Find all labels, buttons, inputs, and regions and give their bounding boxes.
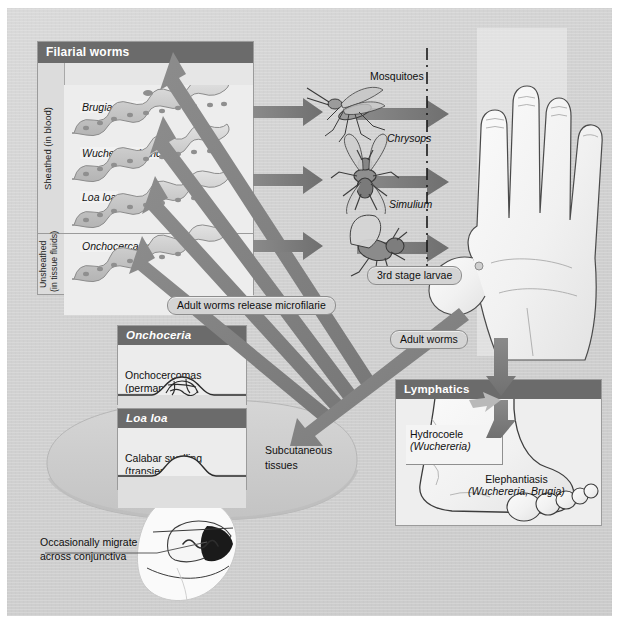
filarial-worms-header: Filarial worms xyxy=(38,42,253,63)
onchoceria-header: Onchoceria xyxy=(118,326,246,345)
filarial-worms-panel: Filarial worms Sheathed (in blood) Unshe… xyxy=(37,41,254,295)
vector-label-mosquitoes: Mosquitoes xyxy=(370,70,424,83)
filarial-worms-body: Sheathed (in blood) Unsheathed (in tissu… xyxy=(38,63,253,315)
elephantiasis-callout: Elephantiasis (Wuchereria, Brugia) xyxy=(468,473,565,498)
conjunctiva-note-line2: across conjunctiva xyxy=(40,550,126,563)
hydrocoele-name: Hydrocoele xyxy=(410,428,463,440)
vector-label-simulium: Simulium xyxy=(389,198,432,211)
subcutaneous-tissues-label-line1: Subcutaneous xyxy=(265,444,332,457)
adult-worms-release-microfilarie-callout: Adult worms release microfilarie xyxy=(167,296,336,315)
hydrocoele-organism: (Wuchereria) xyxy=(410,440,498,452)
unsheathed-column: Unsheathed (in tissue fluids) xyxy=(38,233,65,294)
microfilariae-drawings xyxy=(64,85,253,315)
subcutaneous-tissues-label-line2: tissues xyxy=(265,459,298,472)
lymphatics-panel: Lymphatics xyxy=(395,379,602,526)
vector-feeding-arrows xyxy=(253,98,323,260)
larvae-transmission-arrows xyxy=(357,100,449,262)
diagram-canvas: Filarial worms Sheathed (in blood) Unshe… xyxy=(7,8,612,616)
nuclei-legend-swatch xyxy=(143,90,153,96)
sheathed-label: Sheathed (in blood) xyxy=(43,79,53,219)
worm-illustration-area: Nuclei Brugia malayi Wuchereria bancroft… xyxy=(64,85,253,315)
hand-illustration xyxy=(429,28,602,360)
loa-loa-body: Calabar swelling (transient) xyxy=(118,428,246,508)
onchoceria-lesion-panel: Onchoceria Onchocercomas (permanent) xyxy=(117,325,247,405)
lymphatics-header: Lymphatics xyxy=(396,380,601,399)
unsheathed-label-line1: Unsheathed xyxy=(39,238,48,290)
elephantiasis-name: Elephantiasis xyxy=(485,473,547,485)
loa-loa-lesion-panel: Loa loa Calabar swelling (transient) xyxy=(117,408,247,490)
loa-loa-header: Loa loa xyxy=(118,409,246,428)
third-stage-larvae-callout: 3rd stage larvae xyxy=(367,266,462,285)
elephantiasis-organism: (Wuchereria, Brugia) xyxy=(468,485,565,497)
hydrocoele-callout: Hydrocoele (Wuchereria) xyxy=(406,425,503,465)
worm-onchocerca xyxy=(72,224,229,282)
lymphatics-body: Hydrocoele (Wuchereria) Elephantiasis (W… xyxy=(396,399,601,544)
mosquito-illustration xyxy=(307,87,385,142)
vector-label-chrysops: Chrysops xyxy=(387,132,431,145)
unsheathed-label-line2: (in tissue fluids) xyxy=(50,236,59,292)
figure-root: Filarial worms Sheathed (in blood) Unshe… xyxy=(0,0,619,624)
sheathed-column: Sheathed (in blood) xyxy=(38,63,65,233)
calabar-swelling-drawing xyxy=(118,450,246,508)
adult-worms-callout: Adult worms xyxy=(390,330,468,349)
conjunctiva-note-line1: Occasionally migrate xyxy=(40,536,137,549)
